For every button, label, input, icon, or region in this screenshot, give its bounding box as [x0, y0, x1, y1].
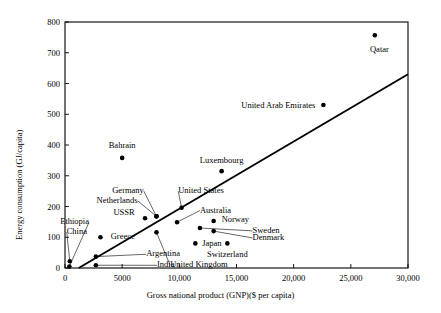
leader-line-argentina	[96, 254, 146, 256]
x-axis-title: Gross national product (GNP)($ per capit…	[0, 290, 441, 300]
point-label-netherlands: Netherlands	[97, 195, 138, 205]
data-point-sweden[interactable]	[198, 226, 203, 231]
chart-figure: 0500010,00015,00020,00025,00030,00001002…	[0, 0, 441, 313]
x-tick-label: 0	[63, 273, 67, 283]
data-point-switzerland[interactable]	[225, 241, 230, 246]
leader-line-australia	[177, 211, 200, 223]
data-point-united-states[interactable]	[179, 205, 184, 210]
point-label-china: China	[67, 226, 88, 236]
data-point-argentina[interactable]	[94, 254, 99, 259]
y-axis-title: Energy consumption (GJ/capita)	[14, 130, 24, 240]
point-label-germany: Germany	[112, 185, 144, 195]
point-label-greece: Greece	[111, 231, 135, 241]
y-tick-label: 500	[47, 109, 60, 119]
point-label-argentina: Argentina	[146, 248, 180, 258]
point-label-qatar: Qatar	[370, 44, 389, 54]
x-tick-label: 15,000	[225, 273, 248, 283]
scatter-plot-svg: 0500010,00015,00020,00025,00030,00001002…	[0, 0, 441, 313]
x-tick-label: 5000	[114, 273, 131, 283]
y-tick-label: 300	[47, 171, 60, 181]
leader-line-germany	[144, 191, 157, 216]
point-label-switzerland: Switzerland	[207, 249, 248, 259]
y-tick-label: 200	[47, 202, 60, 212]
y-tick-label: 800	[47, 17, 60, 27]
point-label-denmark: Denmark	[253, 232, 285, 242]
leader-line-netherlands	[138, 201, 157, 217]
point-label-bahrain: Bahrain	[109, 140, 137, 150]
data-point-norway[interactable]	[211, 219, 216, 224]
data-point-japan[interactable]	[193, 241, 198, 246]
point-label-norway: Norway	[222, 214, 250, 224]
data-point-qatar[interactable]	[373, 33, 378, 38]
data-point-united-arab-emirates[interactable]	[321, 103, 326, 108]
y-tick-label: 100	[47, 232, 60, 242]
data-point-denmark[interactable]	[211, 229, 216, 234]
x-tick-label: 20,000	[282, 273, 305, 283]
point-label-united-kingdom: United Kingdom	[170, 259, 228, 269]
leader-line-sweden	[200, 228, 253, 231]
data-point-ethiopia[interactable]	[67, 264, 72, 269]
point-label-ethiopia: Ethiopia	[60, 216, 89, 226]
x-tick-label: 25,000	[339, 273, 362, 283]
x-tick-label: 30,000	[396, 273, 419, 283]
point-label-united-states: United States	[178, 185, 224, 195]
x-tick-label: 10,000	[168, 273, 191, 283]
data-point-bahrain[interactable]	[120, 156, 125, 161]
data-point-luxembourg[interactable]	[219, 169, 224, 174]
data-point-greece[interactable]	[98, 235, 103, 240]
leader-line-china	[67, 232, 70, 261]
point-label-united-arab-emirates: United Arab Emirates	[241, 100, 315, 110]
point-label-ussr: USSR	[113, 207, 135, 217]
point-label-luxembourg: Luxembourg	[200, 155, 245, 165]
data-point-ussr[interactable]	[143, 216, 148, 221]
y-tick-label: 600	[47, 79, 60, 89]
data-point-netherlands[interactable]	[154, 214, 159, 219]
data-point-australia[interactable]	[175, 220, 180, 225]
data-point-united-kingdom[interactable]	[154, 230, 159, 235]
y-tick-label: 700	[47, 48, 60, 58]
data-point-china[interactable]	[68, 259, 73, 264]
y-tick-label: 400	[47, 140, 60, 150]
y-tick-label: 0	[56, 263, 60, 273]
point-label-japan: Japan	[202, 238, 222, 248]
data-point-india[interactable]	[94, 263, 99, 268]
